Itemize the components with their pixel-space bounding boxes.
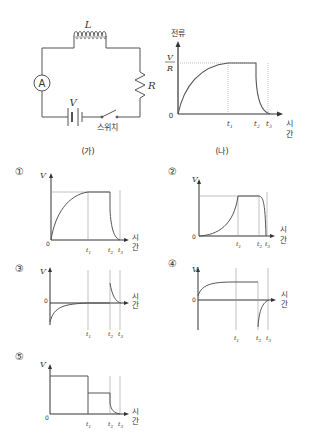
option-3-x1: 시 xyxy=(132,292,139,301)
option-4-origin: 0 xyxy=(192,296,196,303)
option-1-x1: 시 xyxy=(132,233,139,242)
x-axis-label-1: 시 xyxy=(286,119,293,128)
option-5-t3-sub: 3 xyxy=(121,424,124,429)
option-5-origin: 0 xyxy=(45,414,49,421)
option-2[interactable]: ② V 0 t1 t2 t3 시 간 xyxy=(168,166,287,249)
option-4-number: ④ xyxy=(168,258,177,269)
option-2-t2-sub: 2 xyxy=(259,244,263,249)
option-2-number: ② xyxy=(168,166,177,177)
option-2-t1-sub: 1 xyxy=(239,244,242,249)
option-1-x2: 간 xyxy=(132,242,139,252)
t2-sub: 2 xyxy=(256,124,260,129)
option-4-t2-sub: 2 xyxy=(258,338,262,343)
battery-label: V xyxy=(69,97,78,108)
option-4-t3-sub: 3 xyxy=(269,338,272,343)
option-3-x2: 간 xyxy=(132,300,139,310)
circuit-diagram xyxy=(34,32,145,127)
option-5-x1: 시 xyxy=(132,407,139,416)
resistor-label: R xyxy=(147,80,156,91)
option-2-t3-sub: 3 xyxy=(268,244,271,249)
t1-sub: 1 xyxy=(230,124,233,129)
option-5-x2: 간 xyxy=(132,416,139,426)
x-axis-label-2: 간 xyxy=(286,129,294,139)
option-5-number: ⑤ xyxy=(15,351,24,362)
ammeter-label: A xyxy=(39,78,46,89)
option-3-y-label: V xyxy=(40,267,47,276)
option-3-t1-sub: 1 xyxy=(89,334,92,339)
option-3-t3-sub: 3 xyxy=(121,334,124,339)
switch-icon xyxy=(101,110,118,118)
option-2-x2: 간 xyxy=(280,235,287,245)
option-5[interactable]: ⑤ V 0 t1 t2 t3 시 간 xyxy=(15,351,139,429)
option-1-t2-sub: 2 xyxy=(110,250,114,255)
option-1[interactable]: ① V 0 t1 t2 t3 시 간 xyxy=(15,166,139,255)
figure-canvas: L R V A 스위치 (가) 전류 V R 0 t 1 t 2 t 3 시 간… xyxy=(0,0,309,444)
battery-icon xyxy=(68,108,82,126)
option-1-origin: 0 xyxy=(46,240,50,247)
option-5-y-label: V xyxy=(40,360,47,369)
option-1-number: ① xyxy=(15,166,24,177)
t3-sub: 3 xyxy=(269,124,272,129)
figure-a-caption: (가) xyxy=(81,147,94,156)
option-5-t2-sub: 2 xyxy=(110,424,114,429)
option-1-y-label: V xyxy=(40,171,47,180)
option-3-t2-sub: 2 xyxy=(110,334,114,339)
option-1-t3-sub: 3 xyxy=(121,250,124,255)
inductor-coil-icon xyxy=(74,32,106,49)
current-graph xyxy=(176,41,284,117)
y-axis-label: 전류 xyxy=(171,28,185,38)
option-4-t1-sub: 1 xyxy=(237,338,240,343)
option-4-x2: 간 xyxy=(281,299,288,309)
option-4-x1: 시 xyxy=(281,290,288,299)
figure-b-caption: (나) xyxy=(215,147,228,156)
option-2-origin: 0 xyxy=(192,233,196,240)
y-tick-r: R xyxy=(166,64,173,73)
option-3-origin: 0 xyxy=(44,297,48,304)
switch-label: 스위치 xyxy=(97,123,118,132)
y-tick-v: V xyxy=(167,53,174,62)
option-4[interactable]: ④ V 0 t1 t2 t3 시 간 xyxy=(168,258,288,343)
resistor-icon xyxy=(135,72,145,98)
option-3-number: ③ xyxy=(15,263,24,274)
option-3[interactable]: ③ V 0 t1 t2 t3 시 간 xyxy=(15,263,139,339)
origin-label: 0 xyxy=(169,112,173,120)
option-2-x1: 시 xyxy=(280,225,287,234)
option-1-t1-sub: 1 xyxy=(89,250,92,255)
option-5-t1-sub: 1 xyxy=(89,424,92,429)
inductor-label: L xyxy=(84,19,92,30)
